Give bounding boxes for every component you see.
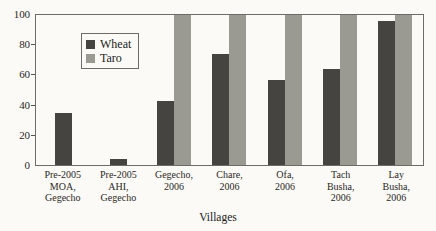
bar-wheat xyxy=(55,113,72,166)
legend-swatch-icon-wheat xyxy=(86,40,95,49)
bar-taro xyxy=(285,15,302,165)
y-tick-label-60: 60 xyxy=(0,69,30,80)
legend-label-taro: Taro xyxy=(100,52,122,64)
x-axis-category-label: Pre-2005 AHI, Gegecho xyxy=(91,169,147,213)
legend-swatch-icon-taro xyxy=(86,54,95,63)
y-tick-label-20: 20 xyxy=(0,130,30,141)
y-tick-label-0: 0 xyxy=(0,160,30,171)
bar-taro xyxy=(229,15,246,165)
legend-entry-wheat: Wheat xyxy=(86,37,131,51)
bar-wheat xyxy=(323,69,340,165)
bar-group xyxy=(147,15,202,165)
bar-taro xyxy=(174,15,191,165)
bar-chart: 100 80 60 40 20 0 Wheat Taro Pre-2005 MO… xyxy=(0,0,436,231)
plot-area: Wheat Taro xyxy=(35,14,424,166)
y-tick-label-80: 80 xyxy=(0,39,30,50)
legend: Wheat Taro xyxy=(81,33,139,69)
bar-wheat xyxy=(268,80,285,166)
bar-wheat xyxy=(157,101,174,166)
y-axis: 100 80 60 40 20 0 xyxy=(0,0,30,231)
bar-group xyxy=(202,15,257,165)
bar-taro xyxy=(340,15,357,165)
bar-group xyxy=(312,15,367,165)
legend-entry-taro: Taro xyxy=(86,51,131,65)
y-tick-label-40: 40 xyxy=(0,100,30,111)
bar-wheat xyxy=(212,54,229,165)
x-axis-title: Villages xyxy=(0,211,436,223)
x-axis-category-label: Pre-2005 MOA, Gegecho xyxy=(35,169,91,213)
x-axis-category-label: Ofa, 2006 xyxy=(257,169,313,213)
legend-label-wheat: Wheat xyxy=(100,38,131,50)
x-axis-labels: Pre-2005 MOA, GegechoPre-2005 AHI, Gegec… xyxy=(35,169,424,213)
x-axis-category-label: Gegecho, 2006 xyxy=(146,169,202,213)
bar-taro xyxy=(395,15,412,165)
bar-wheat xyxy=(378,21,395,165)
y-tick-label-100: 100 xyxy=(0,9,30,20)
bar-group xyxy=(368,15,423,165)
x-axis-category-label: Chare, 2006 xyxy=(202,169,258,213)
x-axis-category-label: Tach Busha, 2006 xyxy=(313,169,369,213)
bar-group xyxy=(257,15,312,165)
bar-wheat xyxy=(110,159,127,165)
x-axis-category-label: Lay Busha, 2006 xyxy=(368,169,424,213)
